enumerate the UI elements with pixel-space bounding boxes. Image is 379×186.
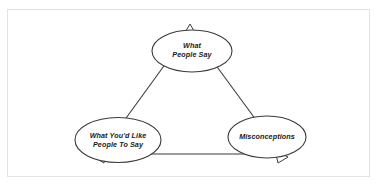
diagram-canvas: What People Say What You'd Like People T… [0, 0, 379, 186]
node-shape-what-people-say [152, 30, 232, 72]
node-shape-misconceptions [228, 116, 306, 158]
triangle-diagram-graphic [0, 0, 379, 186]
node-shape-what-youd-like-people-to-say [75, 118, 161, 163]
